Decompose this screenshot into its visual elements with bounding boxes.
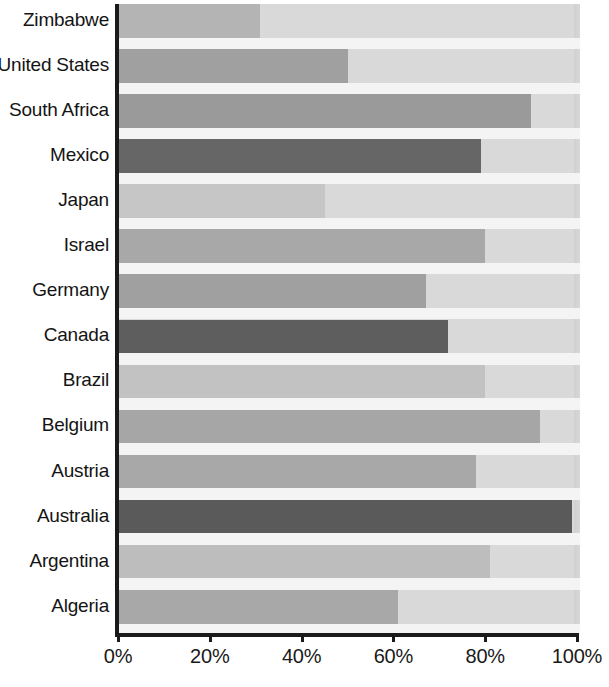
bar-row — [118, 184, 580, 218]
category-label-austria: Austria — [51, 460, 115, 482]
bar-row — [118, 590, 580, 624]
bar-belgium — [118, 410, 540, 444]
x-tick-label-40: 40% — [282, 645, 321, 668]
gridline — [118, 38, 580, 49]
category-label-zimbabwe: Zimbabwe — [23, 9, 115, 31]
bar-germany — [118, 274, 426, 308]
category-label-japan: Japan — [58, 189, 115, 211]
x-tick-80 — [484, 633, 487, 642]
bar-algeria — [118, 590, 398, 624]
category-label-south-africa: South Africa — [9, 99, 115, 121]
bar-row — [118, 500, 580, 534]
gridline — [118, 578, 580, 589]
gridline — [118, 308, 580, 319]
category-label-brazil: Brazil — [63, 369, 115, 391]
category-label-belgium: Belgium — [42, 414, 115, 436]
bar-row — [118, 545, 580, 579]
x-tick-label-100: 100% — [552, 645, 602, 668]
gridline — [118, 353, 580, 364]
x-tick-label-60: 60% — [374, 645, 413, 668]
bar-japan — [118, 184, 325, 218]
bar-brazil — [118, 365, 485, 399]
bar-row — [118, 139, 580, 173]
gridline — [118, 173, 580, 184]
bar-row — [118, 410, 580, 444]
bar-south-africa — [118, 94, 531, 128]
x-tick-label-80: 80% — [465, 645, 504, 668]
bar-argentina — [118, 545, 490, 579]
category-label-argentina: Argentina — [29, 550, 115, 572]
x-tick-20 — [209, 633, 212, 642]
bar-row — [118, 49, 580, 83]
x-axis-line — [115, 633, 579, 637]
bar-mexico — [118, 139, 481, 173]
gridline — [118, 218, 580, 229]
bar-zimbabwe — [118, 4, 260, 38]
gridline — [118, 263, 580, 274]
gridline — [118, 488, 580, 499]
bar-canada — [118, 320, 448, 354]
bar-row — [118, 455, 580, 489]
category-label-united-states: United States — [0, 54, 115, 76]
gridline — [118, 398, 580, 409]
bar-row — [118, 274, 580, 308]
category-label-australia: Australia — [37, 505, 115, 527]
category-label-canada: Canada — [44, 324, 115, 346]
gridline — [118, 533, 580, 544]
gridline — [118, 83, 580, 94]
x-tick-40 — [301, 633, 304, 642]
bar-row — [118, 4, 580, 38]
bar-australia — [118, 500, 572, 534]
bar-row — [118, 320, 580, 354]
bar-united-states — [118, 49, 348, 83]
bar-row — [118, 229, 580, 263]
category-label-israel: Israel — [64, 234, 115, 256]
x-tick-0 — [117, 633, 120, 642]
gridline — [118, 443, 580, 454]
x-tick-label-20: 20% — [190, 645, 229, 668]
bar-israel — [118, 229, 485, 263]
bar-chart: ZimbabweUnited StatesSouth AfricaMexicoJ… — [0, 0, 609, 687]
x-tick-60 — [392, 633, 395, 642]
gridline — [118, 128, 580, 139]
x-tick-label-0: 0% — [104, 645, 133, 668]
bar-austria — [118, 455, 476, 489]
category-label-mexico: Mexico — [50, 144, 115, 166]
category-label-algeria: Algeria — [51, 595, 115, 617]
y-axis-line — [115, 4, 119, 636]
bar-row — [118, 94, 580, 128]
x-tick-100 — [576, 633, 579, 642]
category-label-germany: Germany — [32, 279, 115, 301]
bar-row — [118, 365, 580, 399]
